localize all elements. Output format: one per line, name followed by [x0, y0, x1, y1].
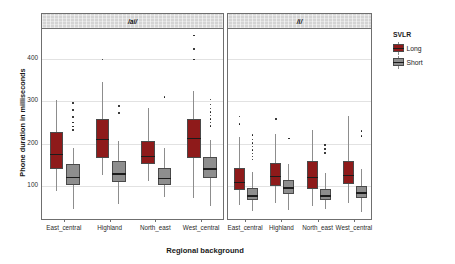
boxplot-short	[112, 29, 126, 219]
outlier-point	[72, 126, 74, 128]
outlier-point	[193, 48, 195, 50]
facet-panel-title: /ai/	[42, 14, 223, 29]
x-tick-label: East_central	[46, 224, 81, 231]
legend-label-long: Long	[407, 45, 422, 52]
outlier-point	[252, 159, 254, 161]
boxplot-long	[307, 29, 318, 219]
y-tick-label: 100	[16, 181, 38, 188]
outlier-point	[361, 130, 363, 132]
boxplot-long	[270, 29, 281, 219]
median-line	[203, 168, 217, 169]
outlier-point	[252, 153, 254, 155]
outlier-point	[210, 99, 212, 101]
legend-label-short: Short	[407, 59, 423, 66]
boxplot-chart: Phone duration in milliseconds 100200300…	[0, 0, 455, 264]
legend-item-short[interactable]: Short	[393, 55, 453, 69]
facet-panel-2: /i/	[227, 13, 372, 220]
outlier-point	[118, 105, 120, 107]
boxplot-long	[141, 29, 155, 219]
x-axis-tick-labels: East_centralHighlandNorth_eastWest_centr…	[0, 224, 455, 236]
boxplot-long	[234, 29, 245, 219]
outlier-point	[361, 135, 363, 137]
boxplot-short	[66, 29, 80, 219]
median-line	[283, 187, 294, 188]
outlier-point	[252, 142, 254, 144]
outlier-point	[118, 112, 120, 114]
outlier-point	[164, 96, 166, 98]
outlier-point	[102, 59, 104, 61]
legend-title: SVLR	[393, 31, 453, 38]
outlier-point	[252, 156, 254, 158]
boxplot-short	[247, 29, 258, 219]
box-iqr	[50, 132, 64, 169]
x-tick-label: West_central	[336, 224, 373, 231]
x-tick-label: North_east	[140, 224, 171, 231]
facet-plot-area	[42, 29, 223, 219]
median-line	[307, 177, 318, 178]
outlier-point	[324, 152, 326, 154]
outlier-point	[72, 109, 74, 111]
median-line	[158, 178, 172, 179]
box-iqr	[343, 161, 354, 184]
median-line	[141, 156, 155, 157]
outlier-point	[210, 115, 212, 117]
median-line	[187, 138, 201, 139]
boxplot-long	[96, 29, 110, 219]
x-axis-title: Regional background	[40, 246, 370, 255]
boxplot-long	[343, 29, 354, 219]
box-iqr	[307, 161, 318, 189]
x-tick-label: Highland	[269, 224, 294, 231]
facet-panel-1: /ai/	[41, 13, 224, 220]
outlier-point	[210, 125, 212, 127]
boxplot-long	[50, 29, 64, 219]
outlier-point	[210, 122, 212, 124]
outlier-point	[210, 118, 212, 120]
median-line	[66, 177, 80, 178]
box-iqr	[141, 141, 155, 164]
box-iqr	[158, 168, 172, 185]
box-iqr	[247, 188, 258, 201]
outlier-point	[252, 139, 254, 141]
outlier-point	[239, 116, 241, 118]
box-iqr	[112, 161, 126, 182]
whisker-line	[348, 116, 349, 203]
outlier-point	[252, 146, 254, 148]
outlier-point	[72, 122, 74, 124]
box-iqr	[234, 168, 245, 190]
outlier-point	[252, 149, 254, 151]
legend-item-long[interactable]: Long	[393, 41, 453, 55]
outlier-point	[210, 111, 212, 113]
median-line	[270, 176, 281, 177]
outlier-point	[324, 148, 326, 150]
x-tick-label: West_central	[183, 224, 220, 231]
x-tick-label: North_east	[302, 224, 333, 231]
box-iqr	[66, 164, 80, 184]
x-tick-label: Highland	[97, 224, 122, 231]
outlier-point	[193, 59, 195, 61]
boxplot-short	[158, 29, 172, 219]
median-line	[112, 173, 126, 174]
outlier-point	[72, 129, 74, 131]
outlier-point	[239, 123, 241, 125]
outlier-point	[210, 104, 212, 106]
y-tick-label: 300	[16, 96, 38, 103]
median-line	[50, 154, 64, 155]
legend-key-short-boxplot-icon	[393, 57, 404, 68]
median-line	[343, 175, 354, 176]
boxplot-long	[187, 29, 201, 219]
median-line	[96, 139, 110, 140]
boxplot-short	[203, 29, 217, 219]
outlier-point	[193, 35, 195, 37]
facet-panel-title: /i/	[228, 14, 371, 29]
outlier-point	[210, 108, 212, 110]
median-line	[234, 182, 245, 183]
y-tick-label: 200	[16, 139, 38, 146]
outlier-point	[252, 134, 254, 136]
y-tick-label: 400	[16, 54, 38, 61]
outlier-point	[275, 118, 277, 120]
outlier-point	[72, 116, 74, 118]
median-line	[320, 195, 331, 196]
outlier-point	[288, 138, 290, 140]
boxplot-short	[283, 29, 294, 219]
x-tick-label: East_central	[228, 224, 263, 231]
